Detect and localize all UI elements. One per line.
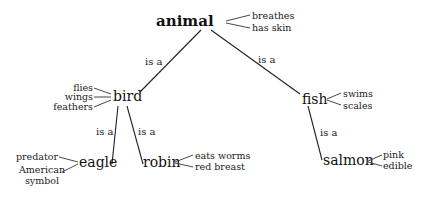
animal-property-breathes: breathes — [252, 10, 294, 21]
eagle-property-predator: predator — [16, 151, 59, 162]
fish-property-connectors — [327, 93, 341, 105]
edge-label-bird-animal: is a — [145, 56, 163, 67]
node-fish: fish — [302, 91, 328, 107]
salmon-property-pink: pink — [383, 149, 404, 160]
node-bird: bird — [113, 88, 142, 104]
edge-fish-animal — [211, 30, 300, 94]
robin-property-red-breast: red breast — [195, 161, 245, 172]
edge-label-eagle-bird: is a — [96, 126, 114, 137]
node-animal: animal — [156, 12, 214, 30]
eagle-property-symbol: symbol — [25, 175, 59, 186]
bird-property-feathers: feathers — [53, 101, 93, 112]
eagle-property-american: American — [18, 164, 65, 175]
node-salmon: salmon — [323, 152, 374, 168]
fish-property-swims: swims — [343, 88, 373, 99]
node-robin: robin — [143, 154, 181, 170]
edge-label-salmon-fish: is a — [320, 127, 338, 138]
edge-label-fish-animal: is a — [258, 54, 276, 65]
bird-property-connectors — [94, 88, 111, 107]
edge-label-robin-bird: is a — [138, 126, 156, 137]
semantic-network-diagram: animal breathes has skin is a is a bird … — [0, 0, 422, 197]
fish-property-scales: scales — [343, 100, 373, 111]
animal-property-has-skin: has skin — [252, 22, 291, 33]
robin-property-eats-worms: eats worms — [195, 150, 250, 161]
salmon-property-edible: edible — [383, 160, 413, 171]
node-eagle: eagle — [79, 154, 117, 170]
animal-property-connectors — [226, 15, 250, 28]
